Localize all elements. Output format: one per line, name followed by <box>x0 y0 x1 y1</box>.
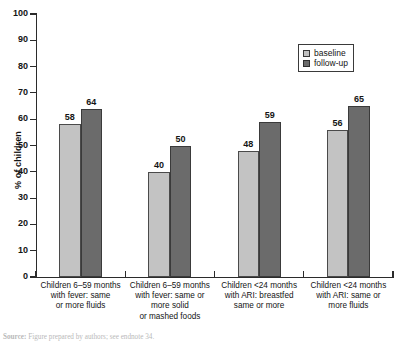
category-label-line: more solid <box>126 301 213 311</box>
category-label-line: or more fluids <box>37 301 124 311</box>
y-tick-80 <box>30 66 37 67</box>
y-tick-10 <box>30 250 37 251</box>
y-tick-label-70: 70 <box>0 87 28 97</box>
category-label-line: Children <24 months <box>305 281 392 291</box>
y-tick-90 <box>30 40 37 41</box>
legend[interactable]: baseline follow-up <box>298 44 354 72</box>
bar-follow-up-group-3 <box>259 122 281 277</box>
source-note-prefix: Source: <box>3 333 26 341</box>
x-tick-4 <box>392 271 393 278</box>
bar-value-follow-up-group-2: 50 <box>164 134 198 144</box>
bar-baseline-group-3 <box>238 151 260 277</box>
source-note: Source: Figure prepared by authors; see … <box>3 333 154 341</box>
bar-baseline-group-1 <box>59 124 81 277</box>
legend-swatch-baseline-icon <box>303 50 310 57</box>
category-label-line: Children <24 months <box>216 281 303 291</box>
category-label-line: or mashed foods <box>126 312 213 322</box>
y-tick-label-30: 30 <box>0 192 28 202</box>
x-tick-1 <box>125 271 126 278</box>
bar-value-follow-up-group-1: 64 <box>74 97 108 107</box>
category-label-3: Children <24 monthswith ARI: breastfedsa… <box>216 281 303 312</box>
category-label-4: Children <24 monthswith ARI: same ormore… <box>305 281 392 312</box>
category-label-line: same or more <box>216 301 303 311</box>
bar-follow-up-group-2 <box>170 146 192 278</box>
category-label-line: with fever: same <box>37 291 124 301</box>
y-tick-60 <box>30 119 37 120</box>
category-label-line: with ARI: breastfed <box>216 291 303 301</box>
legend-item-baseline[interactable]: baseline <box>303 48 348 58</box>
legend-item-follow-up[interactable]: follow-up <box>303 58 348 68</box>
legend-swatch-follow-up-icon <box>303 60 310 67</box>
x-tick-0 <box>35 271 36 278</box>
y-tick-label-40: 40 <box>0 166 28 176</box>
y-tick-30 <box>30 198 37 199</box>
bar-follow-up-group-1 <box>81 109 103 277</box>
category-label-line: with fever: same or <box>126 291 213 301</box>
y-tick-70 <box>30 92 37 93</box>
category-label-line: more fluids <box>305 301 392 311</box>
y-tick-label-90: 90 <box>0 34 28 44</box>
source-note-text: Figure prepared by authors; see endnote … <box>28 333 154 341</box>
category-label-1: Children 6–59 monthswith fever: sameor m… <box>37 281 124 312</box>
y-tick-label-10: 10 <box>0 245 28 255</box>
bar-baseline-group-2 <box>148 172 170 277</box>
category-label-line: Children 6–59 months <box>126 281 213 291</box>
y-tick-50 <box>30 145 37 146</box>
bar-chart: % of children 1009080706050403020100 586… <box>0 0 400 343</box>
bar-value-follow-up-group-4: 65 <box>342 94 376 104</box>
legend-label-follow-up: follow-up <box>314 58 348 68</box>
y-tick-label-0: 0 <box>0 271 28 281</box>
category-label-line: with ARI: same or <box>305 291 392 301</box>
y-tick-label-60: 60 <box>0 113 28 123</box>
y-tick-label-50: 50 <box>0 140 28 150</box>
category-label-line: Children 6–59 months <box>37 281 124 291</box>
y-tick-label-100: 100 <box>0 8 28 18</box>
y-tick-40 <box>30 171 37 172</box>
y-tick-100 <box>30 13 37 14</box>
x-tick-3 <box>303 271 304 278</box>
bar-baseline-group-4 <box>327 130 349 277</box>
bar-follow-up-group-4 <box>348 106 370 277</box>
category-label-2: Children 6–59 monthswith fever: same orm… <box>126 281 213 322</box>
bar-value-follow-up-group-3: 59 <box>253 110 287 120</box>
y-tick-20 <box>30 224 37 225</box>
y-tick-label-80: 80 <box>0 61 28 71</box>
legend-label-baseline: baseline <box>314 48 346 58</box>
y-tick-label-20: 20 <box>0 218 28 228</box>
x-tick-2 <box>214 271 215 278</box>
